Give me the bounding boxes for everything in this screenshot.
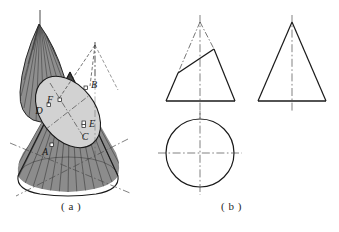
point-marker-A <box>50 143 53 146</box>
vertex-label-E: E <box>88 118 95 129</box>
plain-view-left-edge <box>258 22 292 101</box>
technical-drawing-canvas: A B C D E F <box>0 0 339 232</box>
plain-view-right-edge <box>292 22 326 101</box>
apex-dashed-far-right <box>95 45 118 90</box>
vertex-label-F: F <box>46 94 54 105</box>
vertex-label-B: B <box>91 79 97 90</box>
point-marker-F <box>58 98 61 101</box>
orthographic-group <box>158 15 326 195</box>
vertex-label-A: A <box>41 146 49 157</box>
point-marker-B <box>84 86 87 89</box>
front-view-cut <box>166 15 235 118</box>
cut-view-right-upper-edge <box>200 22 214 49</box>
cut-view-left-lower-edge <box>166 73 178 101</box>
figure-root: A B C D E F <box>0 0 339 232</box>
front-view-plain <box>258 15 326 112</box>
caption-a: ( a ) <box>61 200 81 212</box>
point-marker-E <box>82 121 85 124</box>
vertex-label-C: C <box>82 131 89 142</box>
caption-b: ( b ) <box>221 200 242 212</box>
top-view-circle <box>158 111 242 195</box>
vertex-label-D: D <box>34 105 43 116</box>
pictorial-group: A B C D E F <box>10 10 130 196</box>
cut-view-right-lower-edge <box>214 49 235 101</box>
